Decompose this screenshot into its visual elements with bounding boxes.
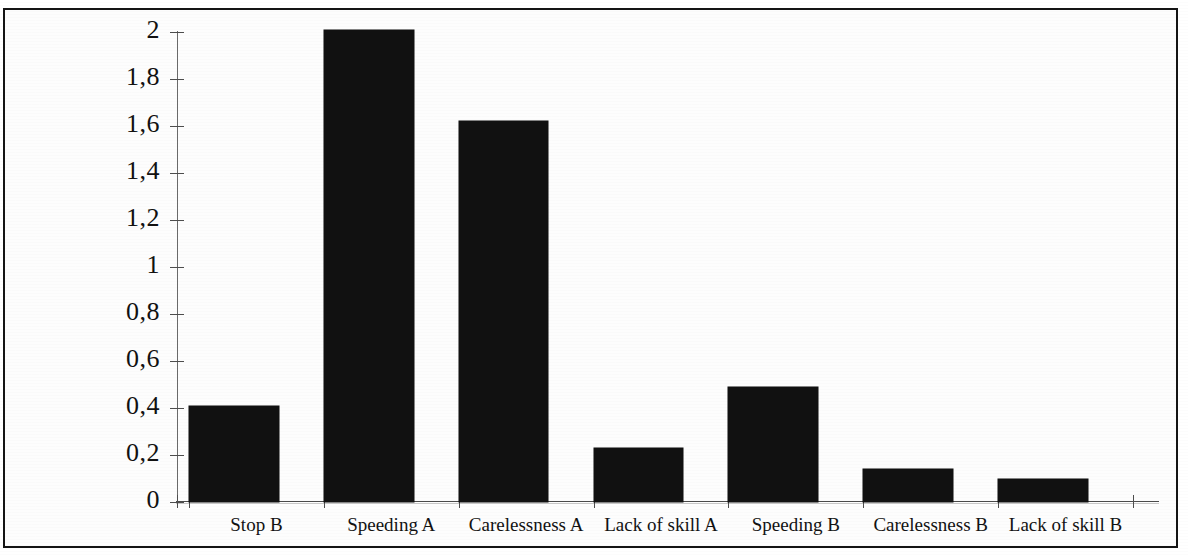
x-label-speeding-b: Speeding B bbox=[728, 514, 863, 536]
bar-lack-of-skill-b[interactable] bbox=[998, 479, 1088, 503]
y-tick-label: 2 bbox=[40, 15, 160, 45]
x-label-carelessness-a: Carelessness A bbox=[459, 514, 594, 536]
y-tick-label: 0,8 bbox=[40, 297, 160, 327]
y-tick-label: 0,2 bbox=[40, 438, 160, 468]
plot-area bbox=[189, 32, 1133, 502]
y-tick-label: 1,6 bbox=[40, 109, 160, 139]
y-tick-label: 1,4 bbox=[40, 156, 160, 186]
bar-carelessness-b[interactable] bbox=[863, 469, 953, 502]
bar-lack-of-skill-a[interactable] bbox=[594, 448, 684, 502]
bar-speeding-a[interactable] bbox=[324, 30, 414, 502]
y-tick-mark bbox=[170, 408, 184, 409]
y-tick-label: 1,8 bbox=[40, 62, 160, 92]
y-tick-label: 0,4 bbox=[40, 391, 160, 421]
y-tick-mark bbox=[170, 314, 184, 315]
y-tick-mark bbox=[170, 220, 184, 221]
y-tick-label: 1 bbox=[40, 250, 160, 280]
x-label-speeding-a: Speeding A bbox=[324, 514, 459, 536]
bar-speeding-b[interactable] bbox=[728, 387, 818, 502]
x-axis-origin-tick bbox=[177, 495, 178, 508]
y-tick-mark bbox=[170, 267, 184, 268]
bar-carelessness-a[interactable] bbox=[459, 121, 549, 502]
y-tick-label: 1,2 bbox=[40, 203, 160, 233]
x-label-lack-of-skill-b: Lack of skill B bbox=[998, 514, 1133, 536]
x-tick-mark bbox=[1133, 495, 1134, 508]
y-tick-mark bbox=[170, 32, 184, 33]
bar-stop-b[interactable] bbox=[189, 406, 279, 502]
x-label-lack-of-skill-a: Lack of skill A bbox=[594, 514, 729, 536]
x-label-carelessness-b: Carelessness B bbox=[863, 514, 998, 536]
y-tick-mark bbox=[170, 361, 184, 362]
chart-page: 00,20,40,60,811,21,41,61,82 Stop BSpeedi… bbox=[0, 0, 1188, 555]
y-tick-mark bbox=[170, 126, 184, 127]
x-label-stop-b: Stop B bbox=[189, 514, 324, 536]
y-tick-mark bbox=[170, 455, 184, 456]
y-tick-label: 0,6 bbox=[40, 344, 160, 374]
y-tick-mark bbox=[170, 173, 184, 174]
y-tick-label: 0 bbox=[40, 485, 160, 515]
y-tick-mark bbox=[170, 79, 184, 80]
